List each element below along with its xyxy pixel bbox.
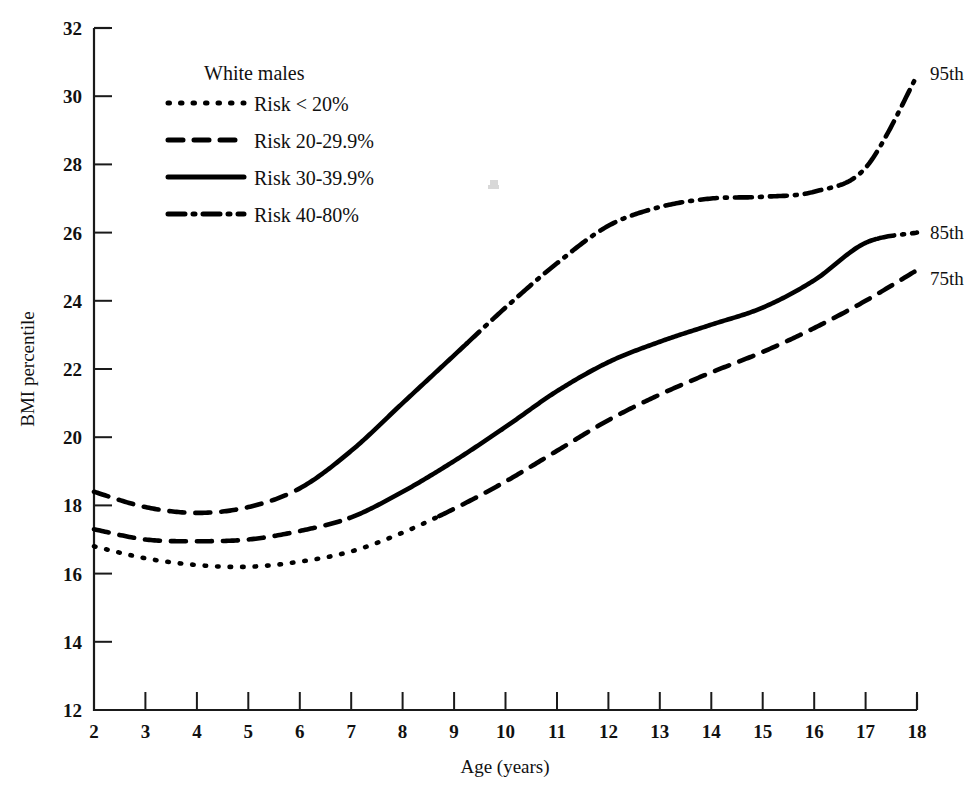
scan-artifact bbox=[488, 180, 499, 189]
x-axis-ticks bbox=[94, 692, 917, 710]
y-tick-label: 32 bbox=[63, 18, 82, 39]
x-tick-label: 6 bbox=[295, 721, 305, 742]
y-axis-title: BMI percentile bbox=[17, 311, 38, 427]
x-tick-label: 2 bbox=[89, 721, 99, 742]
x-tick-label: 3 bbox=[141, 721, 151, 742]
x-tick-label: 17 bbox=[856, 721, 876, 742]
legend-item-risk-lt-20: Risk < 20% bbox=[168, 93, 349, 115]
y-axis-tick-labels: 12 14 16 18 20 22 24 26 28 30 32 bbox=[63, 18, 83, 721]
curve-75th-dotted bbox=[94, 517, 438, 567]
legend-label: Risk 40-80% bbox=[254, 204, 359, 226]
x-axis-title: Age (years) bbox=[460, 756, 549, 778]
curve-95th-dashdot bbox=[467, 76, 917, 344]
axis-frame bbox=[94, 28, 917, 710]
x-tick-label: 16 bbox=[805, 721, 824, 742]
x-tick-label: 11 bbox=[548, 721, 566, 742]
y-tick-label: 30 bbox=[63, 86, 82, 107]
y-tick-label: 18 bbox=[63, 495, 82, 516]
y-tick-label: 16 bbox=[63, 564, 82, 585]
x-tick-label: 18 bbox=[908, 721, 927, 742]
y-tick-label: 20 bbox=[63, 427, 82, 448]
legend-label: Risk 20-29.9% bbox=[254, 130, 374, 152]
x-tick-label: 15 bbox=[753, 721, 772, 742]
y-tick-label: 26 bbox=[63, 223, 82, 244]
x-tick-label: 13 bbox=[650, 721, 669, 742]
legend-label: Risk < 20% bbox=[254, 93, 349, 115]
chart-canvas: 12 14 16 18 20 22 24 26 28 30 32 bbox=[0, 0, 979, 796]
curve-85th-dashdot bbox=[878, 233, 917, 239]
series-end-label-75th: 75th bbox=[930, 268, 964, 289]
x-tick-label: 9 bbox=[449, 721, 459, 742]
x-tick-label: 7 bbox=[346, 721, 356, 742]
curve-75th-dashed bbox=[439, 270, 917, 516]
y-tick-label: 22 bbox=[63, 359, 82, 380]
y-tick-label: 28 bbox=[63, 154, 82, 175]
series-end-label-85th: 85th bbox=[930, 222, 964, 243]
x-tick-label: 10 bbox=[496, 721, 515, 742]
series-end-label-95th: 95th bbox=[930, 63, 964, 84]
legend-label: Risk 30-39.9% bbox=[254, 167, 374, 189]
x-axis-tick-labels: 2 3 4 5 6 7 8 9 10 11 12 13 14 15 16 17 … bbox=[89, 721, 926, 742]
x-tick-label: 14 bbox=[702, 721, 722, 742]
x-tick-label: 12 bbox=[599, 721, 618, 742]
legend: White males Risk < 20% Risk 20-29.9% Ris… bbox=[168, 62, 374, 226]
curve-85th-dashed bbox=[94, 519, 348, 542]
y-axis-ticks bbox=[94, 28, 112, 710]
bmi-percentile-chart: 12 14 16 18 20 22 24 26 28 30 32 bbox=[0, 0, 979, 796]
y-tick-label: 12 bbox=[63, 700, 82, 721]
series-end-labels: 95th 85th 75th bbox=[930, 63, 964, 289]
y-tick-label: 14 bbox=[63, 632, 83, 653]
legend-item-risk-30-39: Risk 30-39.9% bbox=[168, 167, 374, 189]
y-tick-label: 24 bbox=[63, 291, 83, 312]
x-tick-label: 5 bbox=[244, 721, 254, 742]
legend-title: White males bbox=[204, 62, 305, 84]
curve-95th-dashed bbox=[94, 491, 294, 513]
axis-lines bbox=[94, 28, 917, 710]
x-tick-label: 8 bbox=[398, 721, 408, 742]
data-curves bbox=[94, 76, 917, 567]
legend-item-risk-20-29: Risk 20-29.9% bbox=[168, 130, 374, 152]
x-tick-label: 4 bbox=[192, 721, 202, 742]
legend-item-risk-40-80: Risk 40-80% bbox=[168, 204, 359, 226]
